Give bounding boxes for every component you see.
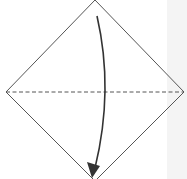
paper-square-outline xyxy=(6,0,184,179)
origami-diagram xyxy=(0,0,187,179)
